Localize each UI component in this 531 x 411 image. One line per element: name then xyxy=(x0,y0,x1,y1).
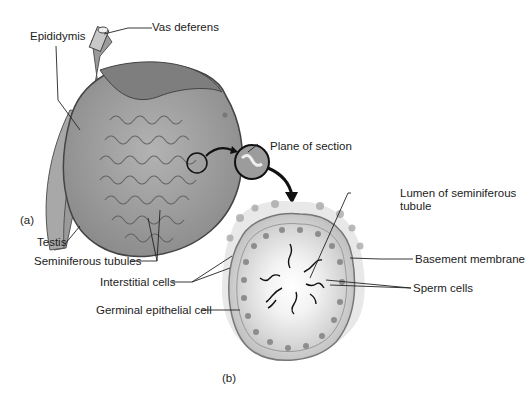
label-germinal-epithelial-cell: Germinal epithelial cell xyxy=(96,304,212,317)
label-vas-deferens: Vas deferens xyxy=(152,21,219,34)
panel-b-label: (b) xyxy=(222,372,236,385)
label-lumen-line2: tubule xyxy=(400,200,431,213)
testis-shape xyxy=(63,62,242,257)
label-lumen-line1: Lumen of seminiferous xyxy=(400,187,516,200)
diagram-artwork xyxy=(0,0,531,411)
label-testis: Testis xyxy=(37,236,66,249)
label-interstitial-cells: Interstitial cells xyxy=(100,276,175,289)
testis-diagram: Vas deferens Epididymis (a) Testis Semin… xyxy=(0,0,531,411)
label-plane-of-section: Plane of section xyxy=(270,140,352,153)
panel-a-label: (a) xyxy=(20,214,34,227)
label-seminiferous-tubules: Seminiferous tubules xyxy=(34,255,141,268)
label-sperm-cells: Sperm cells xyxy=(413,282,473,295)
tubule-cross-section xyxy=(222,200,365,360)
label-epididymis: Epididymis xyxy=(30,30,86,43)
label-basement-membrane: Basement membrane xyxy=(415,253,525,266)
